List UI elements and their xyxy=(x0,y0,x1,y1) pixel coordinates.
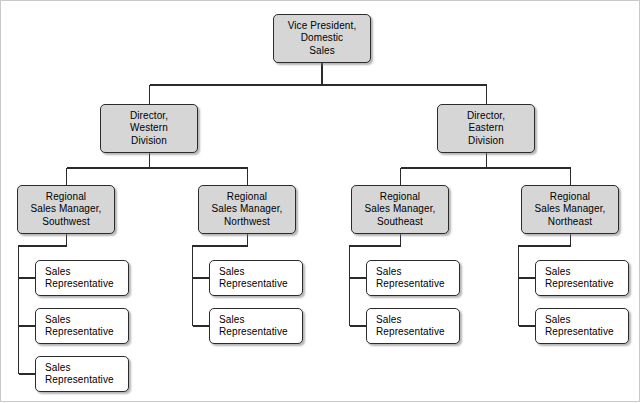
org-node-rep-sw-1: SalesRepresentative xyxy=(35,260,129,296)
org-node-rsm-nw: RegionalSales Manager,Northwest xyxy=(198,185,296,234)
org-node-label-line: Representative xyxy=(545,326,614,339)
org-node-label-line: Northeast xyxy=(548,216,592,229)
org-node-label-line: Representative xyxy=(45,374,114,387)
org-node-label-line: Representative xyxy=(45,326,114,339)
org-node-label-line: Sales Manager, xyxy=(365,203,436,216)
org-node-label-line: Sales Manager, xyxy=(535,203,606,216)
org-node-rep-sw-2: SalesRepresentative xyxy=(35,308,129,344)
org-node-vp: Vice President,DomesticSales xyxy=(273,14,371,63)
org-node-label-line: Sales Manager, xyxy=(212,203,283,216)
edge-rsm-sw-drop xyxy=(19,234,67,374)
org-node-label-line: Sales xyxy=(545,314,571,327)
org-node-label-line: Sales xyxy=(309,45,335,58)
org-node-label-line: Representative xyxy=(376,278,445,291)
org-node-rep-sw-3: SalesRepresentative xyxy=(35,356,129,392)
org-node-label-line: Southwest xyxy=(42,216,90,229)
org-node-label-line: Vice President, xyxy=(288,20,357,33)
org-node-label-line: Sales xyxy=(219,314,245,327)
org-node-label-line: Sales xyxy=(45,314,71,327)
org-node-label-line: Representative xyxy=(45,278,114,291)
org-node-label-line: Sales xyxy=(45,266,71,279)
org-node-label-line: Sales xyxy=(45,362,71,375)
org-node-label-line: Representative xyxy=(545,278,614,291)
org-node-rep-ne-2: SalesRepresentative xyxy=(535,308,629,344)
org-chart-canvas: Vice President,DomesticSalesDirector,Wes… xyxy=(0,0,641,403)
org-node-label-line: Regional xyxy=(227,191,267,204)
org-node-rep-se-1: SalesRepresentative xyxy=(366,260,460,296)
org-node-label-line: Representative xyxy=(219,278,288,291)
org-node-label-line: Sales xyxy=(219,266,245,279)
org-node-rep-se-2: SalesRepresentative xyxy=(366,308,460,344)
org-node-label-line: Sales Manager, xyxy=(31,203,102,216)
org-node-label-line: Director, xyxy=(467,110,505,123)
org-node-label-line: Domestic xyxy=(301,32,343,45)
org-node-rsm-se: RegionalSales Manager,Southeast xyxy=(351,185,449,234)
org-node-rep-nw-1: SalesRepresentative xyxy=(209,260,303,296)
org-node-label-line: Sales xyxy=(376,266,402,279)
org-node-label-line: Division xyxy=(131,135,167,148)
org-node-label-line: Representative xyxy=(219,326,288,339)
org-node-label-line: Division xyxy=(468,135,504,148)
org-node-label-line: Regional xyxy=(550,191,590,204)
org-node-label-line: Northwest xyxy=(224,216,270,229)
org-node-label-line: Sales xyxy=(545,266,571,279)
org-node-rep-nw-2: SalesRepresentative xyxy=(209,308,303,344)
org-node-rsm-ne: RegionalSales Manager,Northeast xyxy=(521,185,619,234)
org-node-rsm-sw: RegionalSales Manager,Southwest xyxy=(17,185,115,234)
org-node-label-line: Sales xyxy=(376,314,402,327)
org-node-label-line: Eastern xyxy=(468,122,503,135)
org-node-label-line: Regional xyxy=(46,191,86,204)
org-node-label-line: Representative xyxy=(376,326,445,339)
org-node-label-line: Director, xyxy=(130,110,168,123)
org-node-rep-ne-1: SalesRepresentative xyxy=(535,260,629,296)
org-node-label-line: Southeast xyxy=(377,216,423,229)
org-node-label-line: Western xyxy=(130,122,168,135)
org-node-dir-east: Director,EasternDivision xyxy=(437,104,535,153)
org-node-label-line: Regional xyxy=(380,191,420,204)
org-node-dir-west: Director,WesternDivision xyxy=(100,104,198,153)
